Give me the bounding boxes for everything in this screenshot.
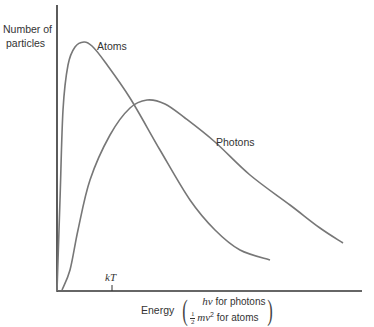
one-half-fraction: 1 2 (190, 311, 195, 325)
y-axis-label-line1: Number of (3, 22, 52, 36)
mv-symbol: mv (197, 311, 210, 323)
x-axis-label: Energy ( hν for photons 1 2 mv2 for atom… (141, 293, 275, 327)
photons-curve (62, 100, 343, 290)
x-axis-label-energy: Energy (141, 304, 174, 316)
atoms-label: Atoms (97, 40, 127, 52)
photons-label: Photons (216, 136, 255, 148)
atoms-curve (57, 42, 270, 291)
h-nu-symbol: hν (202, 295, 212, 307)
left-paren: ( (183, 295, 189, 325)
frac-denominator: 2 (191, 319, 195, 326)
x-axis-label-atoms: 1 2 mv2 for atoms (190, 308, 258, 326)
x-axis-label-photons: hν for photons (190, 295, 265, 308)
photons-suffix: for photons (213, 296, 266, 307)
y-axis-label-line2: particles (3, 36, 52, 50)
chart-plot-area (0, 0, 374, 327)
kt-tick-label: kT (105, 271, 116, 283)
x-axis-label-detail: hν for photons 1 2 mv2 for atoms (190, 295, 265, 326)
right-paren: ) (268, 295, 274, 325)
atoms-suffix: for atoms (214, 312, 258, 323)
y-axis-label: Number of particles (3, 22, 52, 50)
